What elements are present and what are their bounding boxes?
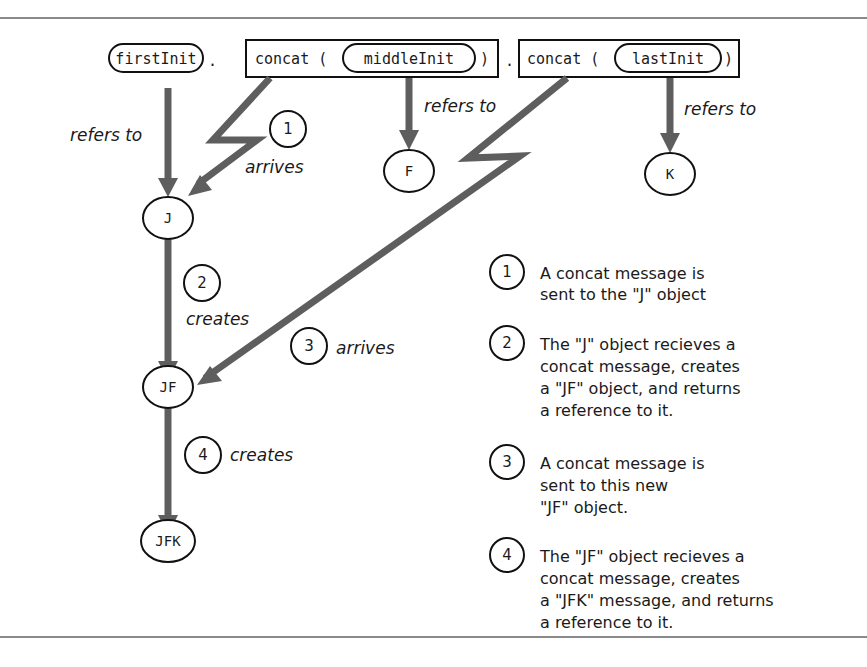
svg-text:1: 1 — [502, 263, 512, 281]
label-step2-creates: creates — [186, 309, 249, 329]
step4-marker: 4 — [185, 437, 221, 473]
svg-text:J: J — [164, 210, 172, 226]
arrowhead-last-to-k — [660, 133, 680, 153]
svg-text:2: 2 — [502, 334, 512, 352]
svg-text:The "J" object recieves a: The "J" object recieves a — [539, 335, 735, 354]
svg-text:JFK: JFK — [155, 533, 181, 549]
step3-marker: 3 — [291, 328, 327, 364]
svg-text:K: K — [666, 166, 675, 182]
svg-text:sent to the "J" object: sent to the "J" object — [540, 285, 706, 304]
svg-text:The "JF" object recieves a: The "JF" object recieves a — [539, 547, 745, 566]
label-step3-arrives: arrives — [336, 338, 395, 358]
arrowhead-middle-to-f — [399, 130, 419, 150]
svg-text:a reference to it.: a reference to it. — [540, 613, 673, 632]
svg-text:4: 4 — [198, 446, 208, 464]
concat-call-2-close: ) — [724, 50, 733, 68]
label-step4-creates: creates — [230, 445, 293, 465]
svg-text:concat message, creates: concat message, creates — [540, 569, 740, 588]
expression: firstInit . concat ( middleInit ) . conc… — [109, 40, 739, 77]
svg-text:4: 4 — [502, 546, 512, 564]
node-jfk: JFK — [141, 520, 195, 562]
legend-item-2: 2 The "J" object recieves a concat messa… — [490, 326, 741, 420]
svg-text:"JF" object.: "JF" object. — [540, 498, 628, 517]
svg-text:a "JFK" message, and returns: a "JFK" message, and returns — [540, 591, 774, 610]
svg-text:1: 1 — [283, 120, 293, 138]
step2-marker: 2 — [184, 265, 220, 301]
label-refers-to-middle: refers to — [424, 96, 496, 116]
svg-text:3: 3 — [502, 453, 512, 471]
legend-item-4: 4 The "JF" object recieves a concat mess… — [490, 538, 774, 632]
legend: 1 A concat message is sent to the "J" ob… — [490, 255, 774, 632]
svg-text:concat message, creates: concat message, creates — [540, 357, 740, 376]
svg-text:JF: JF — [160, 379, 177, 395]
svg-text:3: 3 — [304, 337, 314, 355]
svg-text:a "JF" object, and returns: a "JF" object, and returns — [540, 379, 741, 398]
node-j: J — [143, 197, 193, 239]
concat-call-1-method: concat ( — [255, 50, 327, 68]
dot-2: . — [505, 52, 514, 70]
label-refers-to-first: refers to — [70, 125, 142, 145]
step1-marker: 1 — [270, 111, 306, 147]
legend-item-1: 1 A concat message is sent to the "J" ob… — [490, 255, 706, 304]
legend-item-3: 3 A concat message is sent to this new "… — [490, 445, 705, 517]
svg-text:sent to this new: sent to this new — [540, 476, 668, 495]
dot-1: . — [208, 52, 217, 70]
node-f: F — [384, 150, 434, 192]
svg-text:A concat message is: A concat message is — [540, 264, 705, 283]
label-refers-to-last: refers to — [684, 99, 756, 119]
last-init-label: lastInit — [632, 50, 704, 68]
svg-text:a reference to it.: a reference to it. — [540, 401, 673, 420]
concat-diagram: firstInit . concat ( middleInit ) . conc… — [0, 0, 867, 667]
label-step1-arrives: arrives — [245, 157, 304, 177]
concat-call-2-method: concat ( — [527, 50, 599, 68]
first-init-label: firstInit — [115, 50, 196, 68]
middle-init-label: middleInit — [364, 50, 454, 68]
node-jf: JF — [143, 366, 193, 408]
svg-text:A concat message is: A concat message is — [540, 454, 705, 473]
arrowhead-first-to-j — [158, 178, 178, 197]
concat-call-1-close: ) — [480, 50, 489, 68]
svg-text:2: 2 — [197, 274, 207, 292]
svg-text:F: F — [405, 163, 413, 179]
node-k: K — [645, 153, 695, 195]
